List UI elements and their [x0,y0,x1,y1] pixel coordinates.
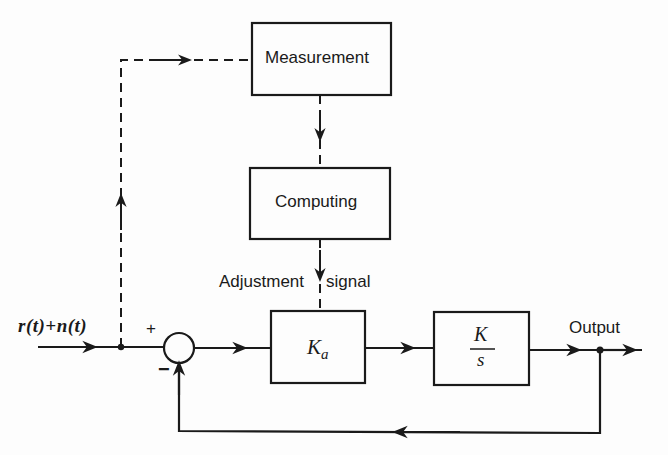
computing-label: Computing [275,192,357,212]
output-branch-dot [597,347,604,354]
minus-sign: − [158,358,170,381]
signal-label: signal [326,272,370,292]
ka-sub: a [321,346,329,362]
k-numerator: K [474,323,487,346]
plus-sign: + [146,319,156,339]
input-branch-dot [118,344,124,350]
adjustment-label: Adjustment [219,272,304,292]
ka-label: Ka [307,335,329,363]
feedback-line [179,350,600,433]
measurement-label: Measurement [265,48,369,68]
diagram-canvas [0,0,668,455]
input-label: r(t)+n(t) [18,315,87,337]
dashed-to-measurement [121,60,252,347]
block-diagram: Measurement Computing Ka K s r(t)+n(t) +… [0,0,668,455]
s-denominator: s [477,349,484,371]
output-label: Output [569,318,620,338]
ka-main: K [307,335,321,359]
